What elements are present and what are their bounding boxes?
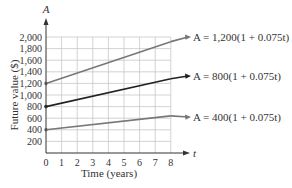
- series-annotations: A = 1,200(1 + 0.075t)A = 800(1 + 0.075t)…: [193, 31, 289, 124]
- x-tick-label: 8: [168, 157, 173, 168]
- y-axis-label: Future value ($): [8, 59, 21, 130]
- series-annotation: A = 400(1 + 0.075t): [193, 111, 281, 124]
- y-tick-label: 800: [27, 101, 42, 112]
- y-tick-label: 600: [27, 113, 42, 124]
- x-axis-label: Time (years): [81, 167, 137, 180]
- x-tick-label: 6: [137, 157, 142, 168]
- y-tick-label: 200: [27, 136, 42, 147]
- y-tick-label: 2,000: [20, 32, 43, 43]
- y-tick-label: 400: [27, 124, 42, 135]
- y-tick-label: 1,800: [20, 43, 43, 54]
- x-tick-label: 0: [44, 157, 49, 168]
- x-axis-var: t: [193, 147, 197, 159]
- y-tick-label: 1,000: [20, 90, 43, 101]
- tick-labels: 0123456782004006008001,0001,2001,4001,60…: [20, 32, 174, 169]
- axes: [44, 18, 191, 156]
- y-axis-var: A: [42, 3, 50, 15]
- x-tick-label: 1: [59, 157, 64, 168]
- x-tick-label: 7: [153, 157, 158, 168]
- y-tick-label: 1,600: [20, 55, 43, 66]
- series-annotation: A = 800(1 + 0.075t): [193, 70, 281, 83]
- y-tick-label: 1,200: [20, 78, 43, 89]
- series-annotation: A = 1,200(1 + 0.075t): [193, 31, 289, 44]
- x-tick-label: 2: [75, 157, 80, 168]
- y-tick-label: 1,400: [20, 66, 43, 77]
- grid: [46, 37, 171, 153]
- chart: 0123456782004006008001,0001,2001,4001,60…: [0, 0, 292, 188]
